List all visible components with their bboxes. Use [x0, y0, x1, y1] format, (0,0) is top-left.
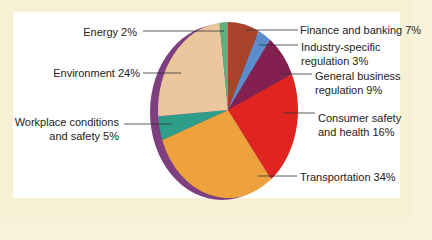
pie-slices — [158, 22, 298, 198]
label-transportation: Transportation 34% — [300, 171, 396, 184]
label-industry-line2: regulation 3% — [301, 55, 368, 68]
label-finance: Finance and banking 7% — [300, 24, 421, 37]
label-environment: Environment 24% — [53, 67, 140, 80]
slice-environment — [158, 23, 228, 116]
label-consumer-line1: Consumer safety — [318, 112, 401, 125]
label-industry-line1: Industry-specific — [301, 41, 380, 54]
label-energy: Energy 2% — [83, 26, 137, 39]
label-general-line2: regulation 9% — [315, 84, 382, 97]
label-workplace-line2: and safety 5% — [49, 130, 119, 143]
label-workplace-line1: Workplace conditions — [15, 116, 119, 129]
label-consumer-line2: and health 16% — [318, 126, 394, 139]
label-general-line1: General business — [315, 70, 401, 83]
